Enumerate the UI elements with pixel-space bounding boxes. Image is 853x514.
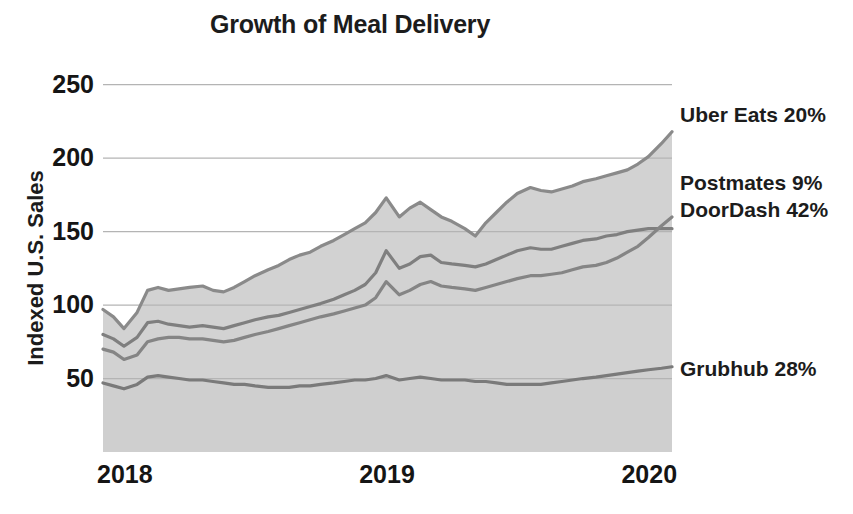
plot-area [0, 0, 853, 514]
series-label-postmates: Postmates 9% [680, 172, 822, 193]
series-label-grubhub: Grubhub 28% [680, 358, 817, 379]
y-tick-label: 200 [20, 145, 94, 170]
chart-canvas [0, 0, 853, 514]
y-tick-label: 150 [20, 219, 94, 244]
y-tick-label: 250 [20, 72, 94, 97]
x-tick-label: 2018 [97, 462, 153, 487]
series-label-uber-eats: Uber Eats 20% [680, 104, 826, 125]
series-label-doordash: DoorDash 42% [680, 199, 828, 220]
x-tick-label: 2019 [359, 462, 415, 487]
chart-container: Growth of Meal Delivery Indexed U.S. Sal… [0, 0, 853, 514]
y-tick-label: 100 [20, 292, 94, 317]
y-tick-label: 50 [20, 366, 94, 391]
area-band-fill [103, 132, 672, 389]
x-tick-label: 2020 [621, 462, 677, 487]
